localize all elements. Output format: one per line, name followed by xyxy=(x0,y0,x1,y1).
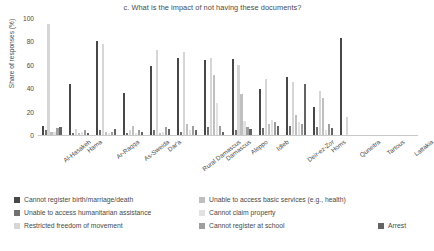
x-tick-label: As-Sweida xyxy=(143,138,171,162)
legend-swatch-icon xyxy=(378,223,384,229)
bar xyxy=(195,130,197,135)
bar xyxy=(102,44,104,135)
bar xyxy=(168,129,170,135)
bar-group xyxy=(340,18,361,135)
bar xyxy=(235,130,237,135)
bar xyxy=(135,133,137,135)
bar xyxy=(138,130,140,135)
y-tick-label: 100 xyxy=(23,15,34,22)
bar xyxy=(126,133,128,135)
bar xyxy=(262,128,264,135)
chart-legend: Cannot register birth/marriage/deathUnab… xyxy=(0,196,425,251)
bar xyxy=(298,122,300,135)
legend-label: Cannot register at school xyxy=(209,222,285,229)
bar xyxy=(325,130,327,135)
legend-label: Cannot claim property xyxy=(209,209,276,216)
x-tick-label: Dar'a xyxy=(167,138,183,153)
bar xyxy=(237,65,239,135)
bar-group xyxy=(367,18,388,135)
legend-item[interactable]: Arrest xyxy=(378,222,406,229)
legend-item[interactable]: Cannot register birth/marriage/death xyxy=(14,196,133,203)
bar xyxy=(322,98,324,135)
bar-group xyxy=(259,18,280,135)
bar xyxy=(53,132,55,136)
bar xyxy=(150,66,152,135)
bar xyxy=(265,79,267,135)
bar xyxy=(59,127,61,135)
bar xyxy=(292,82,294,135)
legend-swatch-icon xyxy=(14,210,20,216)
bar xyxy=(180,132,182,136)
bar xyxy=(286,77,288,136)
x-tick-label: Quneitra xyxy=(359,138,382,158)
bar xyxy=(129,130,131,135)
bar xyxy=(346,117,348,135)
legend-swatch-icon xyxy=(199,197,205,203)
bar xyxy=(313,107,315,135)
bar-group xyxy=(313,18,334,135)
bar xyxy=(277,126,279,135)
bar xyxy=(204,60,206,135)
legend-item[interactable]: Unable to access humanitarian assistance xyxy=(14,209,151,216)
bar xyxy=(72,133,74,135)
bar-group xyxy=(286,18,307,135)
bar xyxy=(87,133,89,135)
bar xyxy=(78,133,80,135)
bar xyxy=(207,127,209,135)
bar xyxy=(304,84,306,135)
bar xyxy=(105,132,107,136)
bar-group xyxy=(232,18,253,135)
bar xyxy=(213,75,215,135)
y-tick-label: 20 xyxy=(27,108,34,115)
bar-group xyxy=(150,18,171,135)
bar xyxy=(295,115,297,135)
x-tick-label: Ar-Raqqa xyxy=(115,138,141,160)
bar xyxy=(222,132,224,136)
bar xyxy=(328,124,330,135)
legend-item[interactable]: Cannot claim property xyxy=(199,209,276,216)
legend-swatch-icon xyxy=(14,223,20,229)
bar xyxy=(316,127,318,135)
y-axis-label: Share of responses (%) xyxy=(8,0,15,109)
bar xyxy=(210,58,212,135)
bar xyxy=(42,126,44,135)
bar xyxy=(162,132,164,136)
legend-label: Arrest xyxy=(388,222,406,229)
x-tick-label: Lattakia xyxy=(412,138,434,157)
bar xyxy=(47,24,49,135)
legend-item[interactable]: Unable to access basic services (e.g., h… xyxy=(199,196,346,203)
bar xyxy=(108,133,110,135)
bar xyxy=(246,127,248,135)
bar xyxy=(232,59,234,135)
legend-item[interactable]: Restricted freedom of movement xyxy=(14,222,123,229)
bar xyxy=(319,91,321,135)
bar xyxy=(249,129,251,135)
x-tick-label: Tartous xyxy=(385,138,406,156)
bar xyxy=(56,128,58,135)
bar-group xyxy=(177,18,198,135)
legend-label: Unable to access humanitarian assistance xyxy=(24,209,151,216)
bar xyxy=(268,124,270,135)
x-axis-labels: Al-HasakehHamaAr-RaqqaAs-SweidaDar'aRura… xyxy=(38,136,418,180)
bar xyxy=(186,124,188,135)
bar xyxy=(289,126,291,135)
bar-group xyxy=(42,18,63,135)
bar xyxy=(153,130,155,135)
bar xyxy=(331,128,333,135)
bar xyxy=(271,120,273,135)
bar xyxy=(340,38,342,135)
bar xyxy=(243,121,245,135)
y-tick-label: 40 xyxy=(27,85,34,92)
bar xyxy=(165,127,167,135)
bar xyxy=(99,130,101,135)
bar xyxy=(189,130,191,135)
bar xyxy=(259,89,261,135)
bar xyxy=(240,94,242,135)
bar xyxy=(216,103,218,135)
legend-label: Restricted freedom of movement xyxy=(24,222,123,229)
y-tick-label: 0 xyxy=(30,132,34,139)
bar-group xyxy=(394,18,415,135)
legend-item[interactable]: Cannot register at school xyxy=(199,222,285,229)
plot-area: 020406080100 xyxy=(38,18,418,135)
